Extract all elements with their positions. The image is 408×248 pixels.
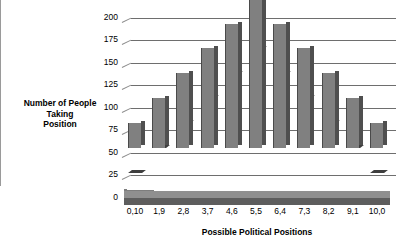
bar-front-face [322, 73, 335, 148]
y-tick-label: 150 [92, 58, 118, 67]
bar-side-face [310, 46, 314, 145]
y-tick-label: 125 [92, 80, 118, 89]
bar-side-face [335, 71, 339, 145]
bar [273, 0, 286, 198]
bar-side-face [262, 0, 266, 145]
bar [152, 0, 165, 198]
bar-top-face [370, 170, 388, 173]
bar-side-face [359, 96, 363, 145]
bar-side-face [189, 71, 193, 145]
x-tick-label: 10,0 [362, 206, 392, 216]
y-tick-label: 100 [92, 103, 118, 112]
y-tick-label: 25 [92, 170, 118, 179]
bar-chart: Number of People Taking Position 0255075… [0, 0, 408, 248]
bar-front-face [201, 48, 214, 148]
bar-side-face [286, 22, 290, 146]
plot-area: 0255075100125150175200 0,101,92,83,74,65… [0, 0, 408, 248]
bar [225, 0, 238, 198]
bar [297, 0, 310, 198]
bar-front-face [297, 48, 310, 148]
bar [370, 0, 383, 198]
bar-side-face [141, 121, 145, 145]
bar [346, 0, 359, 198]
bar [322, 0, 335, 198]
y-tick-label: 200 [92, 13, 118, 22]
bar-side-face [238, 22, 242, 146]
y-tick-label: 50 [92, 148, 118, 157]
y-tick-label: 75 [92, 125, 118, 134]
bar [128, 0, 141, 198]
y-tick-label: 175 [92, 35, 118, 44]
bar [201, 0, 214, 198]
y-axis-line [0, 0, 1, 186]
bar-front-face [273, 24, 286, 149]
bar-front-face [249, 0, 262, 148]
bar-side-face [214, 46, 218, 145]
y-tick-label: 0 [92, 193, 118, 202]
bar-side-face [165, 96, 169, 145]
bar [176, 0, 189, 198]
bar-front-face [152, 98, 165, 148]
bar-front-face [176, 73, 189, 148]
floor-front-face [124, 198, 390, 205]
bar-front-face [128, 123, 141, 148]
bar-front-face [370, 123, 383, 148]
bar [249, 0, 262, 198]
bar-front-face [346, 98, 359, 148]
bar-top-face [128, 170, 146, 173]
bar-front-face [225, 24, 238, 149]
bar-side-face [383, 121, 387, 145]
x-axis-title: Possible Political Positions [124, 227, 390, 237]
